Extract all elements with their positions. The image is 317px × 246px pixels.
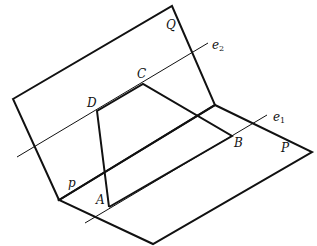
plane-q xyxy=(13,6,215,200)
line-e2 xyxy=(17,43,208,157)
label-e2-sub: 2 xyxy=(219,44,224,53)
label-d: D xyxy=(87,97,97,109)
diagram-canvas: Q P p D C B A e2 e1 xyxy=(0,0,317,246)
label-e1: e1 xyxy=(273,111,285,125)
plane-p xyxy=(59,105,312,244)
label-e1-sub: 1 xyxy=(280,116,285,125)
label-e2: e2 xyxy=(212,39,224,53)
quadrilateral-abcd xyxy=(97,84,232,207)
label-c: C xyxy=(137,68,146,80)
label-p: p xyxy=(68,177,76,189)
label-plane-q: Q xyxy=(166,19,176,31)
diagram-svg xyxy=(0,0,317,246)
label-b: B xyxy=(234,137,243,149)
label-plane-p: P xyxy=(281,142,289,154)
label-a: A xyxy=(96,194,105,206)
